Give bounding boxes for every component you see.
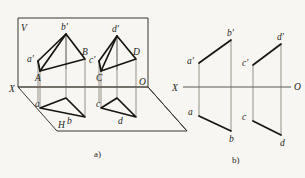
label-b-front-b: b' [227,28,235,38]
label-b-top-b: b [229,134,234,144]
label-a-top-b: a [188,107,193,117]
top-view-cd [253,121,281,135]
caption-part-b: b) [232,155,240,165]
label-d-front-a: d' [112,24,120,34]
label-c-front-a: c' [89,55,96,65]
label-b-front-a: b' [61,22,69,32]
origin-oblique-edge [148,87,187,131]
front-plane-top-view [40,98,85,117]
label-d-top-b: d [280,138,285,148]
label-d-space: D [132,47,140,57]
front-quad-projectors [38,34,85,117]
label-vertical-plane: V [21,23,28,33]
label-c-top-b: c [242,112,247,122]
rear-plane-space-quad [101,36,136,71]
panel-a: V X O H a' b' A B a b c' d' C D c d a) [8,18,187,159]
label-origin-b: O [294,82,301,92]
descriptive-geometry-figure: V X O H a' b' A B a b c' d' C D c d a) [0,0,305,178]
panel-b: X O a' b' a b c' d' c d b) [171,28,301,165]
label-x-axis-a: X [8,84,16,94]
label-a-front-a: a' [27,54,35,64]
front-plane-space-edge [38,34,66,61]
label-horizontal-plane: H [57,120,66,130]
rear-plane-top-view [101,98,136,117]
label-d-front-b: d' [277,32,285,42]
label-x-axis-b: X [171,83,179,93]
label-a-top-a: a [35,99,40,109]
label-b-space: B [82,47,88,57]
right-projection-figure [253,44,281,135]
label-d-top-a: d [118,116,123,126]
front-view-cd [253,44,281,65]
label-c-top-a: c [96,99,101,109]
left-projection-figure [199,40,231,131]
front-view-ab [199,40,231,63]
label-a-space: A [34,73,41,83]
label-c-space: C [96,73,103,83]
label-c-front-b: c' [242,58,249,68]
label-a-front-b: a' [187,56,195,66]
caption-part-a: a) [94,149,101,159]
top-view-ab [199,116,231,131]
label-origin-a: O [139,77,146,87]
label-b-top-a: b [67,116,72,126]
